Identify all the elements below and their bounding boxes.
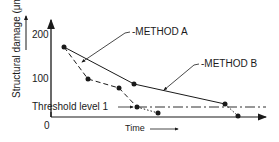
method-b-label: -METHOD B: [201, 58, 257, 69]
method-a-pointer: [82, 32, 130, 62]
y-axis-label: Structural damage (μm): [11, 0, 26, 98]
y-tick-100: 100: [32, 73, 49, 84]
y-tick-0: 0: [44, 120, 50, 131]
series-method-b: [64, 47, 225, 104]
method-a-label: -METHOD A: [132, 26, 188, 37]
series-method-a: [64, 47, 137, 107]
y-tick-200: 200: [32, 29, 49, 40]
chart: Structural damage (μm) 200 100 0 Time Th…: [0, 0, 279, 142]
threshold-label: Threshold level 1: [32, 101, 109, 112]
svg-text:Structural damage (μm): Structural damage (μm): [11, 0, 22, 98]
x-axis-label: Time: [125, 123, 145, 133]
method-b-pointer: [164, 64, 199, 90]
